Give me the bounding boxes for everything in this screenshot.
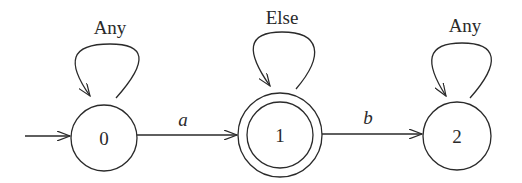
state-2: Any 2 — [423, 15, 491, 170]
state-1-label: 1 — [275, 125, 285, 146]
transition-b-label: b — [363, 107, 373, 128]
self-loop-2 — [432, 43, 492, 98]
state-0: Any 0 — [71, 17, 139, 171]
state-1: Else 1 — [238, 7, 322, 177]
state-0-label: 0 — [99, 128, 109, 149]
self-loop-1 — [253, 32, 314, 89]
self-loop-1-label: Else — [266, 7, 299, 28]
self-loop-2-label: Any — [449, 15, 482, 36]
state-2-label: 2 — [452, 126, 462, 147]
transition-a-label: a — [178, 109, 188, 130]
transition-b: b — [322, 107, 422, 134]
state-diagram: Any 0 a Else 1 b Any 2 — [0, 0, 522, 183]
transition-a: a — [137, 109, 237, 135]
self-loop-0 — [75, 44, 139, 98]
self-loop-0-label: Any — [94, 17, 127, 38]
